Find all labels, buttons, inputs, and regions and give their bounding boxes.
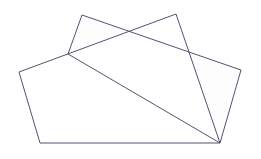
shapes-svg: Two overlapping quadrilaterals [0, 0, 261, 159]
figure-canvas: Two overlapping quadrilaterals [0, 0, 261, 159]
